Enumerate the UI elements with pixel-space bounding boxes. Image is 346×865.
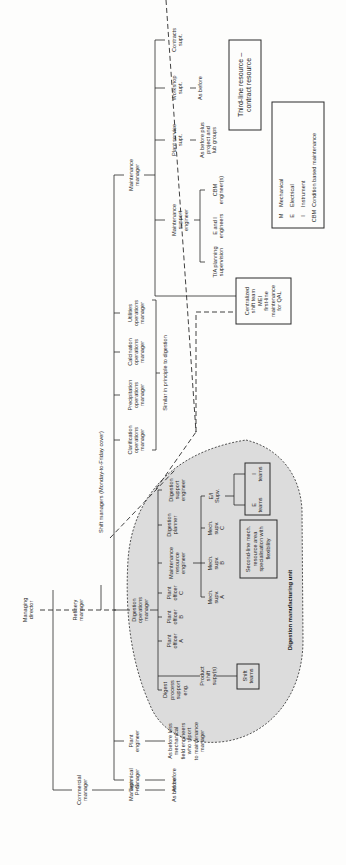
node-utilities-ops: Utilitiesoperationsmanager — [127, 300, 146, 326]
note-similar-in-principle: Similar in principle to digestion — [162, 335, 168, 411]
node-plant-engineer: Plantengineer — [128, 730, 140, 752]
legend-meaning: Mechanical — [278, 179, 284, 207]
node-shift-teams: Shiftteams — [242, 668, 254, 683]
legend-code: I — [300, 215, 306, 217]
node-managing-director: Managingdirector — [22, 598, 34, 623]
node-e-and-i-engineers: E and Iengineers — [212, 214, 224, 239]
digestion-unit-label: Digestion manufacturing unit — [287, 570, 293, 651]
node-ta-planning: T/A planningsupervision — [212, 246, 224, 277]
legend-meaning: Condition based maintenance — [311, 133, 317, 207]
legend-meaning: Electrical — [289, 184, 295, 207]
node-calcination-ops: Calcinationoperationsmanager — [127, 338, 146, 366]
legend-code: E — [289, 214, 295, 218]
node-plant-service-supt: Plant servicesupt. — [171, 124, 183, 156]
node-digestion-ops-manager: Digestionoperationsmanager — [131, 597, 150, 623]
node-plant-service-child: As before plusproject andlub groups — [199, 122, 218, 158]
legend-code: CBM — [311, 209, 317, 222]
node-maintenance-support-engineer: Maintenancesupportengineer — [171, 204, 190, 236]
node-centralized-shift-team: Centralizedshift teamMEIfirst-linemainte… — [244, 285, 282, 317]
node-precipitation-ops: Precipitationoperationsmanager — [127, 380, 146, 411]
node-technical-manager: Technicalmanager — [128, 768, 140, 791]
node-technical-child: As before — [171, 768, 177, 792]
legend-meaning: Instrument — [300, 180, 306, 207]
node-shift-managers: Shift managers (Monday-to-Friday cover) — [98, 431, 104, 533]
node-third-line-resource: Third-line resource –contract resource — [237, 53, 253, 117]
node-digestion-support-engineer: Digestionsupportengineer — [168, 478, 187, 501]
legend-code: M — [278, 213, 284, 218]
node-commercial-manager: Commercialmanager — [76, 775, 88, 805]
node-digestion-planner: Digestionplanner — [166, 513, 178, 536]
node-workshop-child: As before — [197, 76, 203, 100]
node-clarification-ops: Clarificationoperationsmanager — [127, 425, 146, 454]
node-cbm-engineers: CBMengineer(s) — [212, 176, 224, 204]
org-chart-diagram: ManagingdirectorRefinerymanagerCommercia… — [0, 0, 346, 865]
node-contracts-supt: Contractssupt. — [171, 28, 183, 52]
node-workshop-supt: Workshopsupt. — [171, 75, 183, 100]
node-maintenance-manager: Maintenancemanager — [128, 159, 140, 191]
node-refinery-manager: Refinerymanager — [72, 599, 84, 621]
